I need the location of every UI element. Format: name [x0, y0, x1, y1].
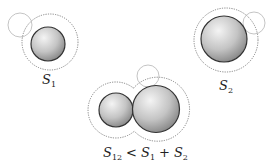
s12-atom-sphere-large: [133, 86, 180, 133]
s2-probe-sphere: [243, 12, 265, 34]
sphere-s2-group: [194, 8, 265, 72]
s2-label: S2: [219, 78, 233, 95]
s12-probe-sphere: [137, 65, 159, 87]
combined-s12-group: [88, 65, 190, 141]
s1-probe-sphere: [8, 13, 32, 37]
s1-label: S1: [42, 72, 56, 89]
sas-diagram: S1 S2 S12<S1+S2: [0, 0, 273, 167]
combined-label: S12<S1+S2: [103, 145, 188, 162]
sphere-s1-group: [8, 13, 78, 70]
s1-atom-sphere: [31, 27, 65, 61]
s12-atom-sphere-small: [99, 93, 133, 127]
s2-atom-sphere: [201, 16, 247, 62]
